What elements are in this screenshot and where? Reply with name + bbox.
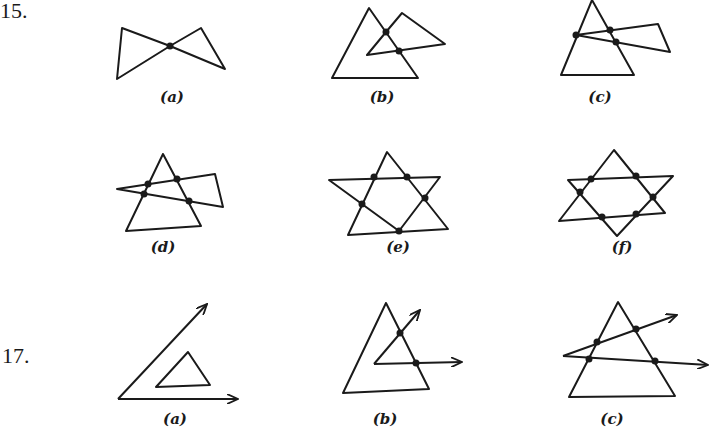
figures-canvas — [0, 0, 709, 430]
figure-17c — [563, 302, 708, 397]
label-15e: (e) — [386, 238, 410, 256]
label-15b: (b) — [370, 88, 395, 106]
label-17a: (a) — [163, 410, 187, 428]
figure-15a — [117, 28, 225, 79]
figure-17a — [118, 304, 238, 399]
label-15a: (a) — [160, 88, 184, 106]
figure-15e — [329, 152, 448, 235]
label-15c: (c) — [588, 88, 611, 106]
label-17b: (b) — [373, 410, 398, 428]
label-15f: (f) — [612, 238, 633, 256]
figure-15b — [332, 8, 445, 78]
figure-15f — [559, 150, 673, 236]
figure-15d — [117, 154, 223, 231]
label-15d: (d) — [151, 238, 176, 256]
figure-15c — [561, 0, 670, 75]
label-17c: (c) — [600, 410, 623, 428]
figure-17b — [343, 303, 462, 393]
